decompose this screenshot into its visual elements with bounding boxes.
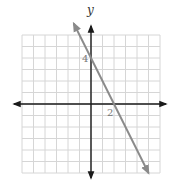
x-intercept-label: 2 [107,107,113,118]
y-axis-label: y [86,3,94,17]
y-intercept-label: 4 [82,53,88,64]
coordinate-graph: y 4 2 [0,0,180,181]
